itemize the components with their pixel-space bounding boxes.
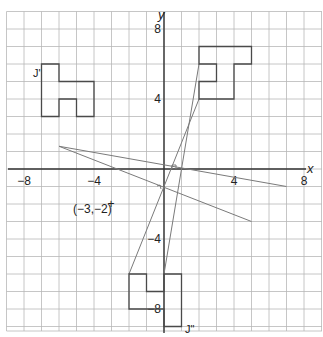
x-tick-label: −4 — [87, 174, 101, 188]
shape-j — [199, 47, 252, 100]
y-tick-label: −4 — [147, 232, 161, 246]
x-tick-label: 4 — [231, 174, 238, 188]
x-tick-label: −8 — [17, 174, 31, 188]
shape-j-double-prime — [129, 274, 182, 327]
y-tick-label: 4 — [154, 92, 161, 106]
shape-label-j-prime: J' — [33, 67, 41, 79]
shape-label-j-double-prime: J" — [185, 323, 195, 335]
coordinate-grid-figure: −8−44884−4−8 x y J' J" + (−3,−2) — [0, 0, 323, 337]
right-angle-marker — [157, 185, 161, 189]
shape-j-prime — [42, 64, 95, 117]
x-axis-label: x — [306, 161, 314, 176]
point-label: (−3,−2) — [73, 202, 112, 216]
x-tick-label: 8 — [301, 174, 308, 188]
y-tick-label: 8 — [154, 22, 161, 36]
